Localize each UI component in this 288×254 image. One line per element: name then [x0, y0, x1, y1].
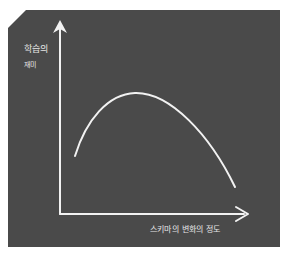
learning-fun-curve	[75, 93, 235, 187]
x-axis-label: 스키마의 변화의 정도	[150, 225, 220, 235]
y-axis-label-line2: 재미	[24, 60, 36, 70]
diagram-stage: 학습의 재미 스키마의 변화의 정도	[0, 0, 288, 254]
y-axis-label-line1: 학습의	[24, 44, 49, 54]
diagram-svg	[0, 0, 288, 254]
